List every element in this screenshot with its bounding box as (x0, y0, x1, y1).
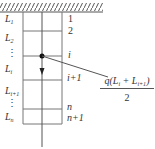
formula-numerator: q(Li + Li+1) (100, 75, 154, 89)
num-part: q(L (105, 75, 119, 86)
load-arrow-icon (40, 68, 45, 75)
segment-label-Li+1: Li+1 (5, 86, 19, 96)
label-base: L (5, 111, 11, 122)
node-label-i: i (68, 50, 71, 60)
label-sub: i (11, 69, 13, 75)
label-base: L (5, 32, 11, 43)
load-formula: q(Li + Li+1) 2 (100, 75, 154, 103)
formula-denominator: 2 (100, 89, 154, 103)
segment-label-L1: L1 (5, 14, 14, 24)
label-base: L (5, 13, 11, 24)
node-label-i-plus-1: i+1 (67, 73, 82, 83)
segment-label-Ln: Ln (5, 112, 14, 122)
num-sub2: i+1 (137, 81, 146, 87)
segment-label-vdots-2: ⋮ (7, 98, 17, 108)
segment-label-vdots-1: ⋮ (7, 48, 17, 58)
label-base: ⋮ (7, 47, 17, 58)
num-sub1: i (118, 81, 120, 87)
fixed-support-ceiling (0, 3, 103, 12)
label-sub: n (11, 117, 14, 123)
num-mid: + L (120, 75, 137, 86)
label-base: L (5, 63, 11, 74)
segment-label-L2: L2 (5, 33, 14, 43)
label-base: L (5, 85, 11, 96)
node-label-1: 1 (68, 14, 73, 24)
node-label-n-plus-1: n+1 (67, 113, 84, 123)
label-sub: 1 (11, 19, 14, 25)
node-label-n: n (67, 102, 72, 112)
num-end: ) (146, 75, 149, 86)
label-base: ⋮ (7, 97, 17, 108)
node-label-2: 2 (68, 26, 73, 36)
label-sub: 2 (11, 38, 14, 44)
segment-label-Li: Li (5, 64, 12, 74)
